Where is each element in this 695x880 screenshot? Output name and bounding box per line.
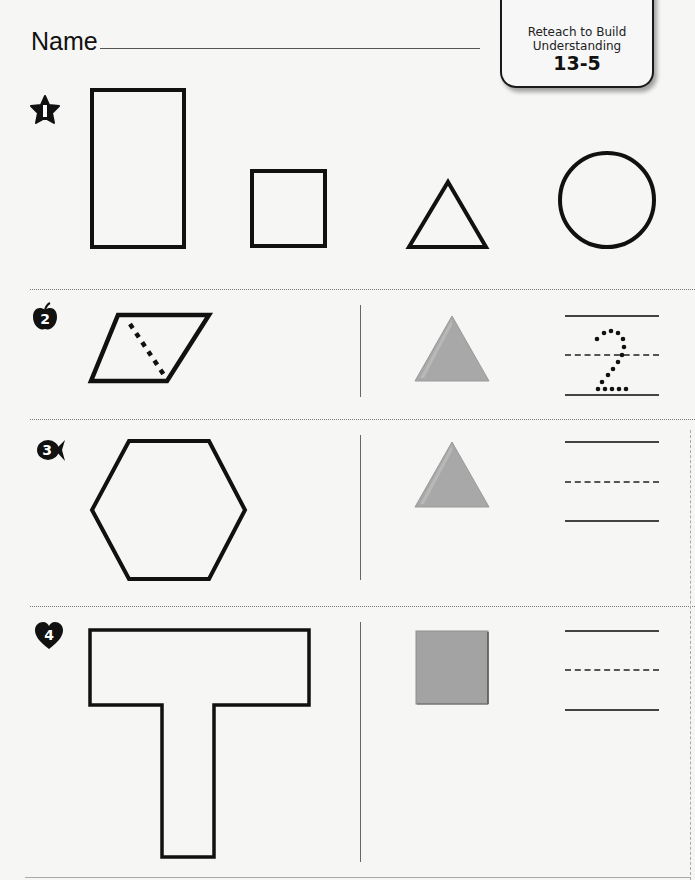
- bottom-rule: [25, 877, 690, 878]
- answer-write-lines-4[interactable]: [565, 627, 659, 712]
- mid-dashed-line: [565, 669, 659, 671]
- triangle-pattern-block: [414, 315, 490, 383]
- traced-number-2: [565, 312, 659, 397]
- heart-icon: 4: [34, 622, 64, 652]
- svg-text:3: 3: [42, 442, 52, 458]
- top-line: [565, 630, 659, 632]
- lesson-box: Reteach to Build Understanding 13-5: [500, 0, 654, 88]
- section-divider: [30, 289, 695, 290]
- lesson-subtitle-line2: Understanding: [502, 39, 652, 53]
- column-divider: [360, 435, 361, 580]
- triangle-pattern-block: [414, 441, 490, 509]
- column-divider: [360, 622, 361, 862]
- star-icon: [30, 95, 60, 125]
- top-line: [565, 441, 659, 443]
- page-edge-perforation: [690, 430, 691, 880]
- fish-icon: 3: [36, 437, 66, 467]
- triangle-outline: [409, 182, 486, 247]
- t-shape: [88, 627, 313, 863]
- answer-write-lines-3[interactable]: [565, 438, 659, 523]
- name-label: Name: [31, 27, 98, 56]
- parallelogram-shape: [88, 312, 218, 387]
- square-pattern-block: [415, 630, 490, 706]
- section-divider: [30, 419, 695, 420]
- lesson-subtitle-line1: Reteach to Build: [502, 25, 652, 39]
- lesson-number: 13-5: [502, 53, 652, 73]
- answer-write-lines-2[interactable]: [565, 312, 659, 397]
- name-write-line[interactable]: [100, 48, 480, 49]
- hexagon-shape: [89, 438, 249, 584]
- column-divider: [360, 305, 361, 397]
- rectangle-outline: [92, 90, 184, 247]
- square-outline: [252, 171, 325, 246]
- bottom-line: [565, 709, 659, 711]
- svg-text:4: 4: [44, 627, 54, 643]
- svg-text:2: 2: [40, 311, 50, 327]
- apple-icon: 2: [30, 302, 60, 332]
- circle-outline: [560, 153, 654, 247]
- section-divider: [30, 606, 695, 607]
- bottom-line: [565, 520, 659, 522]
- problem-1-shapes: [88, 87, 668, 257]
- mid-dashed-line: [565, 481, 659, 483]
